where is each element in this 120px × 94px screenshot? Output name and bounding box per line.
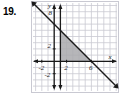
problem-figure-container: 19.	[0, 0, 120, 94]
x-tick-label-6: 6	[89, 64, 93, 72]
coordinate-graph: -2 2 6 2 -2 8 y x	[31, 1, 119, 93]
y-tick-label-2: 2	[48, 42, 52, 50]
y-tick-label-neg2: -2	[44, 71, 50, 79]
problem-number: 19.	[3, 7, 16, 17]
y-tick-label-8: 8	[48, 9, 52, 17]
x-tick-label-2: 2	[64, 64, 68, 72]
